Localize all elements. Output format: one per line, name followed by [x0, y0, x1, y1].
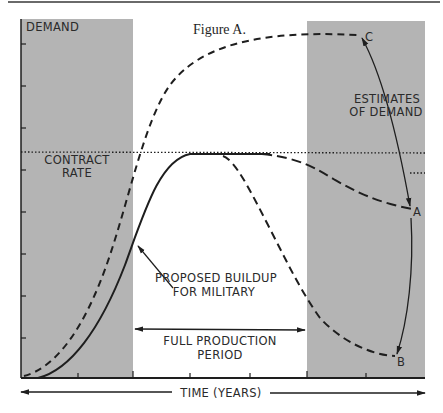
shaded-region-late [307, 21, 425, 378]
full-production-label-2: PERIOD [197, 348, 242, 362]
estimates-label-2: OF DEMAND [349, 105, 422, 119]
point-b-label: B [397, 355, 405, 369]
point-c-label: C [365, 30, 373, 44]
y-axis-label: DEMAND [26, 20, 79, 34]
contract-rate-label-2: RATE [62, 166, 92, 180]
estimates-label-1: ESTIMATES [354, 92, 420, 106]
buildup-label-2: FOR MILITARY [173, 285, 256, 299]
x-axis-label: TIME (YEARS) [179, 386, 261, 400]
buildup-label-1: PROPOSED BUILDUP [155, 271, 277, 285]
contract-rate-label-1: CONTRACT [44, 153, 110, 167]
figure-a-diagram: Figure A. DEMAND CONTRACT RATE ESTIMATES… [0, 0, 443, 413]
figure-title: Figure A. [193, 22, 246, 37]
shaded-region-early [21, 19, 133, 378]
full-production-arrow [135, 329, 305, 330]
point-a-label: A [413, 205, 421, 219]
full-production-label-1: FULL PRODUCTION [163, 334, 276, 348]
